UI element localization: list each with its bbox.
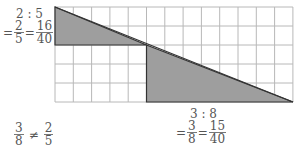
right-equation: =38=1540 — [175, 120, 226, 145]
fraction-16-40: 1640 — [36, 20, 53, 45]
fraction-3-8: 38 — [187, 120, 197, 145]
left-equation: =25=1640 — [2, 20, 53, 45]
fraction-2-5: 25 — [14, 20, 24, 45]
conclusion-inequality: 38≠25 — [14, 122, 53, 147]
fraction-15-40: 1540 — [209, 120, 226, 145]
